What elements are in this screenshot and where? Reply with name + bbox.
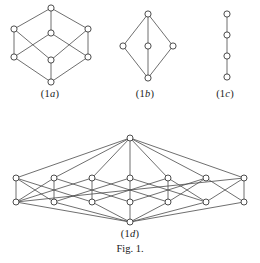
lattice-node-upper-right — [85, 26, 91, 32]
lattice-node-r1-n2 — [51, 175, 57, 181]
lattice-edge — [148, 14, 173, 46]
panel-label-suffix: ) — [55, 88, 59, 99]
panel-label-prefix: (1 — [136, 88, 145, 99]
lattice-edge — [92, 138, 130, 178]
edge-group — [14, 8, 88, 82]
lattice-node-bottom — [224, 74, 230, 80]
lattice-edge — [14, 33, 51, 57]
lattice-node-r1-n1 — [13, 175, 19, 181]
lattice-node-r2-n4 — [127, 199, 133, 205]
lattice-edge — [130, 138, 244, 178]
lattice-node-left — [120, 43, 126, 49]
lattice-node-r1-n5 — [165, 175, 171, 181]
lattice-edge — [123, 14, 148, 46]
lattice-node-r2-n6 — [203, 199, 209, 205]
lattice-node-center — [145, 43, 151, 49]
lattice-edge — [14, 29, 51, 60]
lattice-edge — [51, 8, 88, 29]
panel-label-prefix: (1 — [121, 228, 130, 239]
lattice-node-top — [145, 11, 151, 17]
lattice-edge — [51, 57, 88, 82]
lattice-node-bottom — [48, 79, 54, 85]
lattice-node-r1-n7 — [241, 175, 247, 181]
lattice-node-r1-n6 — [203, 175, 209, 181]
lattice-diagram-1c — [215, 8, 239, 84]
lattice-node-bottom — [145, 75, 151, 81]
lattice-node-lower-middle — [224, 53, 230, 59]
lattice-node-upper-left — [11, 26, 17, 32]
lattice-node-nadir — [127, 219, 133, 225]
lattice-node-r2-n3 — [89, 199, 95, 205]
lattice-edge — [16, 202, 130, 222]
lattice-edge — [130, 202, 244, 222]
lattice-node-right — [170, 43, 176, 49]
lattice-node-r2-n5 — [165, 199, 171, 205]
panel-label-1b: (1b) — [100, 88, 190, 99]
lattice-edge — [14, 57, 51, 82]
figure-caption: Fig. 1. — [0, 243, 260, 254]
lattice-node-apex — [127, 135, 133, 141]
lattice-edge — [130, 138, 206, 178]
panel-label-prefix: (1 — [216, 88, 225, 99]
lattice-node-lower-right — [85, 54, 91, 60]
figure-1: (1a)(1b)(1c)(1d)Fig. 1. — [0, 0, 260, 263]
lattice-node-r2-n7 — [241, 199, 247, 205]
panel-label-suffix: ) — [230, 88, 234, 99]
lattice-edge — [54, 138, 130, 178]
lattice-node-r1-n4 — [127, 175, 133, 181]
panel-label-1c: (1c) — [190, 88, 260, 99]
lattice-diagram-1a — [4, 2, 98, 88]
lattice-node-upper-center — [48, 30, 54, 36]
panel-label-1d: (1d) — [0, 228, 260, 239]
lattice-edge — [130, 138, 168, 178]
lattice-edge — [51, 29, 88, 60]
lattice-node-lower-center — [48, 57, 54, 63]
panel-label-suffix: ) — [135, 228, 139, 239]
lattice-diagram-1d — [6, 132, 254, 228]
lattice-edge — [148, 46, 173, 78]
panel-label-prefix: (1 — [41, 88, 50, 99]
lattice-node-r2-n1 — [13, 199, 19, 205]
panel-label-1a: (1a) — [0, 88, 100, 99]
lattice-edge — [123, 46, 148, 78]
lattice-node-r1-n3 — [89, 175, 95, 181]
lattice-edge — [16, 138, 130, 178]
lattice-node-upper-middle — [224, 32, 230, 38]
lattice-node-lower-left — [11, 54, 17, 60]
lattice-edge — [14, 8, 51, 29]
lattice-node-top — [48, 5, 54, 11]
lattice-node-top — [224, 11, 230, 17]
lattice-node-r2-n2 — [51, 199, 57, 205]
panel-label-suffix: ) — [150, 88, 154, 99]
lattice-diagram-1b — [117, 8, 179, 84]
